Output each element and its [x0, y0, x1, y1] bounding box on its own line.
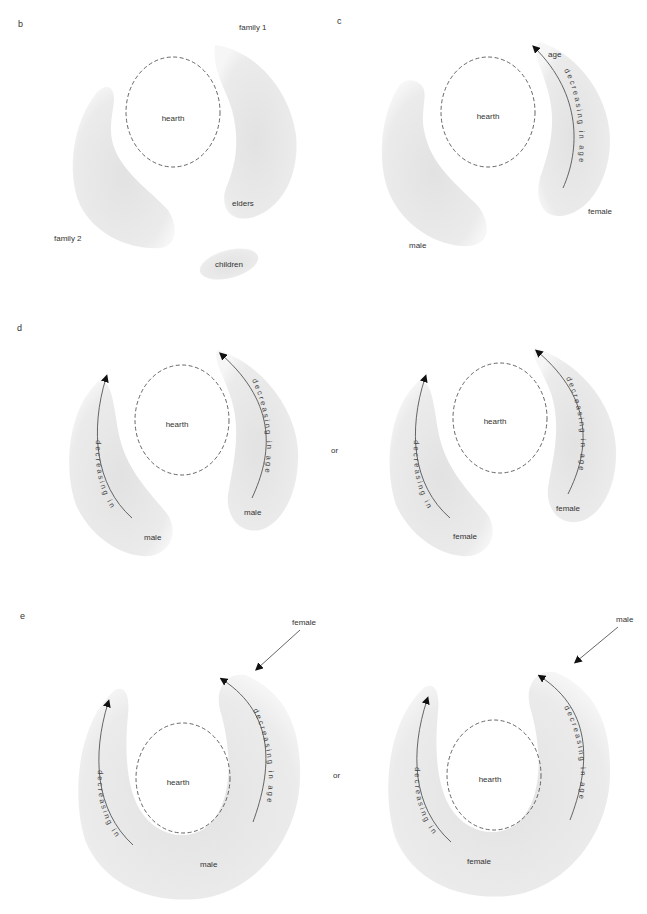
- hearth-label: hearth: [479, 775, 502, 784]
- left-group-blob: [69, 381, 173, 557]
- group-label: male: [200, 860, 218, 869]
- right-group-blob: [216, 350, 298, 531]
- left-group-label: male: [144, 533, 162, 542]
- hearth-label: hearth: [484, 417, 507, 426]
- age-label: age: [548, 50, 562, 59]
- group-label: female: [467, 857, 492, 866]
- hearth-boundary: [126, 57, 220, 167]
- panel-label-e: e: [20, 611, 25, 621]
- family1-blob: [215, 45, 297, 219]
- panel-b: b hearth family 1 family 2 elders childr…: [18, 19, 297, 285]
- female-blob: [536, 42, 610, 216]
- panel-d: d or hearth decreasing in age decreasing…: [0, 0, 616, 556]
- panel-label-b: b: [18, 19, 23, 29]
- incoming-label: female: [292, 618, 317, 627]
- children-label: children: [215, 260, 243, 269]
- panel-label-c: c: [337, 16, 342, 26]
- incoming-arrow: [577, 627, 618, 661]
- panel-c: c hearth decreasing in age age female ma…: [337, 16, 613, 250]
- family1-label: family 1: [239, 23, 267, 32]
- left-group-label: female: [453, 532, 478, 541]
- hearth-label: hearth: [477, 112, 500, 121]
- family2-blob: [73, 87, 175, 248]
- hearth-label: hearth: [166, 420, 189, 429]
- hearth-label: hearth: [167, 778, 190, 787]
- elders-label: elders: [232, 199, 254, 208]
- right-group-blob: [534, 348, 617, 522]
- separator-or: or: [331, 446, 338, 455]
- panel-label-d: d: [17, 323, 22, 333]
- separator-or: or: [333, 771, 340, 780]
- incoming-label: male: [616, 615, 634, 624]
- left-group-blob: [390, 381, 493, 557]
- incoming-arrow: [258, 630, 300, 668]
- family2-label: family 2: [54, 234, 82, 243]
- female-label: female: [588, 207, 613, 216]
- male-label: male: [409, 241, 427, 250]
- left-decreasing-in-age-label: decreasing in age: [0, 0, 440, 837]
- right-group-label: male: [244, 508, 262, 517]
- diagram-canvas: b hearth family 1 family 2 elders childr…: [0, 0, 647, 914]
- right-group-label: female: [556, 504, 581, 513]
- hearth-label: hearth: [162, 114, 185, 123]
